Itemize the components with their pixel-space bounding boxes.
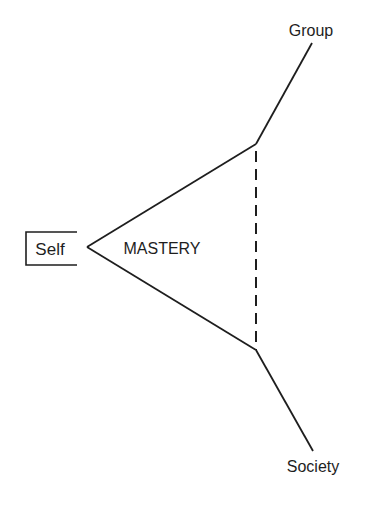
- group-label: Group: [289, 22, 334, 39]
- edge-self-top: [87, 144, 256, 247]
- center-label: MASTERY: [123, 240, 200, 257]
- society-label: Society: [287, 458, 339, 475]
- edge-self-bottom: [87, 247, 256, 350]
- edge-to-society: [256, 350, 313, 451]
- mastery-diagram: Self MASTERY Group Society: [0, 0, 372, 511]
- edge-to-group: [256, 43, 312, 144]
- self-label: Self: [35, 240, 65, 259]
